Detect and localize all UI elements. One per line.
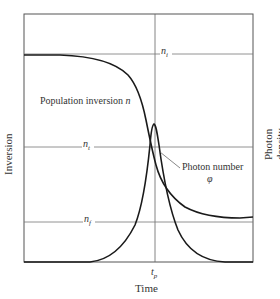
population-inversion-label: Population inversion n bbox=[40, 95, 131, 106]
chart-canvas bbox=[0, 0, 280, 299]
y-axis-left-label: Inversion bbox=[2, 133, 14, 175]
photon-leader-line bbox=[160, 152, 180, 168]
y-axis-right-label: Photon density bbox=[262, 128, 280, 160]
ni-label: ni bbox=[161, 45, 168, 59]
photon-number-symbol: φ bbox=[207, 173, 213, 184]
tp-tick-label: tp bbox=[151, 266, 157, 280]
population-inversion-curve bbox=[24, 55, 253, 218]
nf-label: nf bbox=[84, 213, 91, 227]
nt-label: nt bbox=[83, 138, 90, 152]
x-axis-label: Time bbox=[135, 282, 158, 294]
plot-frame bbox=[24, 14, 253, 262]
photon-number-label: Photon number bbox=[182, 161, 243, 172]
photon-number-curve bbox=[24, 124, 253, 262]
